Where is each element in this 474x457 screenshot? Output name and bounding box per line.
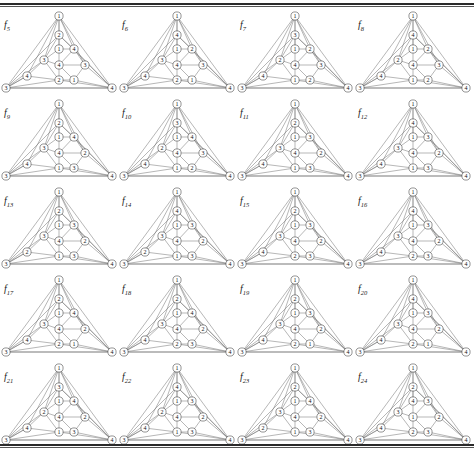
graph-node-label-left: 3 xyxy=(5,173,8,179)
graph-edge xyxy=(27,428,59,432)
graph-node-label-left_mid: 3 xyxy=(279,145,282,151)
graph-edge xyxy=(6,16,59,88)
graph-edge xyxy=(6,80,59,88)
graph-node-label-left_mid: 3 xyxy=(43,321,46,327)
graph-node-label-far_left: 4 xyxy=(144,425,147,431)
graph-node-label-left_mid: 3 xyxy=(43,233,46,239)
graph-edge xyxy=(242,16,295,88)
figure-plate: f5134214343421f6134412343421f71343122434… xyxy=(0,0,474,457)
graph-edge xyxy=(192,344,230,352)
graph-drawing-f15: 134213342423 xyxy=(236,184,354,272)
graph-node-label-mid_top: 1 xyxy=(294,134,297,140)
graph-edge xyxy=(413,16,439,65)
graph-edge xyxy=(124,211,177,264)
graph-node-label-far_left: 4 xyxy=(380,73,383,79)
graph-node-label-mid_top: 1 xyxy=(294,398,297,404)
graph-node-label-far_left: 2 xyxy=(262,425,265,431)
graph-node-label-right: 4 xyxy=(111,349,114,355)
graph-edge xyxy=(242,344,295,352)
graph-node-label-right_top: 4 xyxy=(191,134,194,140)
graph-edge xyxy=(413,368,466,440)
figure-f18: f18134214342423 xyxy=(118,272,236,360)
graph-edge xyxy=(263,104,295,164)
graph-node-label-mid_top: 1 xyxy=(58,310,61,316)
graph-edge xyxy=(177,368,230,440)
graph-node-label-left_mid: 3 xyxy=(397,321,400,327)
graph-drawing-f10: 134314243412 xyxy=(118,96,236,184)
graph-node-label-apex: 1 xyxy=(58,189,61,195)
graph-edge xyxy=(263,192,295,252)
graph-node-label-center: 4 xyxy=(176,150,179,156)
graph-edge xyxy=(124,299,177,352)
graph-edge xyxy=(413,368,439,417)
graph-node-label-upper: 3 xyxy=(176,120,179,126)
graph-edge xyxy=(310,344,348,352)
graph-node-label-low_center: 1 xyxy=(412,77,415,83)
graph-node-label-mid_top: 1 xyxy=(176,46,179,52)
graph-node-label-left_mid: 3 xyxy=(161,233,164,239)
graph-edge xyxy=(124,80,177,88)
graph-node-label-right_mid: 2 xyxy=(84,414,87,420)
graph-edge xyxy=(177,16,230,88)
graph-node-label-left_mid: 2 xyxy=(161,145,164,151)
figure-f10: f10134314243412 xyxy=(118,96,236,184)
graph-edge xyxy=(295,192,348,264)
graph-edge xyxy=(124,280,177,352)
graph-node-label-low_right: 3 xyxy=(191,341,194,347)
graph-node-label-apex: 1 xyxy=(176,101,179,107)
graph-edge xyxy=(413,104,466,176)
graph-edge xyxy=(360,123,413,176)
graph-edge xyxy=(242,432,295,440)
graph-node-label-low_center: 1 xyxy=(412,165,415,171)
graph-edge xyxy=(413,192,439,241)
graph-edge xyxy=(263,340,295,344)
graph-drawing-f21: 134314242413 xyxy=(0,360,118,448)
graph-node-label-upper: 2 xyxy=(294,120,297,126)
graph-node-label-center: 4 xyxy=(412,326,415,332)
figure-f16: f16134413342423 xyxy=(354,184,472,272)
graph-node-label-low_right: 3 xyxy=(73,429,76,435)
graph-node-label-low_right: 2 xyxy=(427,77,430,83)
graph-node-label-right_mid: 2 xyxy=(202,326,205,332)
graph-node-label-low_center: 1 xyxy=(58,165,61,171)
graph-edge xyxy=(124,192,177,264)
graph-edge xyxy=(263,76,295,80)
graph-node-label-center: 4 xyxy=(294,238,297,244)
graph-node-label-right_mid: 3 xyxy=(84,62,87,68)
graph-node-label-right_top: 3 xyxy=(73,222,76,228)
graph-edge xyxy=(59,192,112,264)
graph-edge xyxy=(6,387,59,440)
graph-drawing-f16: 134413342423 xyxy=(354,184,472,272)
graph-node-label-right: 4 xyxy=(465,173,468,179)
graph-drawing-f24: 134243312423 xyxy=(354,360,472,448)
graph-edge xyxy=(145,104,177,164)
graph-node-label-right_top: 4 xyxy=(73,310,76,316)
figure-f14: f14134413342213 xyxy=(118,184,236,272)
footer-rule-thin xyxy=(0,447,474,448)
graph-edge xyxy=(295,280,321,329)
graph-node-label-far_left: 2 xyxy=(26,249,29,255)
graph-node-label-low_right: 1 xyxy=(427,341,430,347)
graph-node-label-low_right: 3 xyxy=(309,429,312,435)
graph-node-label-left: 3 xyxy=(5,437,8,443)
figure-grid: f5134214343421f6134412343421f71343122434… xyxy=(0,8,474,444)
graph-edge xyxy=(360,35,413,88)
graph-node-label-left: 3 xyxy=(359,173,362,179)
graph-node-label-apex: 1 xyxy=(58,13,61,19)
graph-drawing-f23: 134214342213 xyxy=(236,360,354,448)
graph-edge xyxy=(6,432,59,440)
graph-node-label-apex: 1 xyxy=(412,13,415,19)
graph-node-label-low_right: 3 xyxy=(427,253,430,259)
graph-node-label-low_center: 1 xyxy=(294,429,297,435)
graph-node-label-right_mid: 3 xyxy=(202,62,205,68)
graph-node-label-left: 3 xyxy=(359,437,362,443)
graph-edge xyxy=(381,16,413,76)
graph-node-label-right_top: 3 xyxy=(191,398,194,404)
graph-drawing-f22: 134413242413 xyxy=(118,360,236,448)
graph-edge xyxy=(381,428,413,432)
graph-node-label-center: 4 xyxy=(412,62,415,68)
graph-node-label-upper: 4 xyxy=(412,120,415,126)
graph-node-label-right: 4 xyxy=(229,173,232,179)
graph-node-label-far_left: 4 xyxy=(380,337,383,343)
graph-node-label-upper: 2 xyxy=(412,384,415,390)
